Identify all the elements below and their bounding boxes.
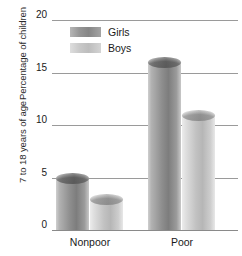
y-axis-title-line2: 7 to 18 years of age (17, 101, 28, 183)
bar-cap-shading (182, 110, 215, 121)
y-tick-label-0: 0 (41, 219, 47, 230)
bar-body (182, 115, 215, 231)
bar-cap-shading (90, 194, 123, 205)
bar-chart: Percentage of children 7 to 18 years of … (0, 0, 242, 256)
y-tick-label-5: 5 (41, 167, 47, 178)
bar-cap-shading (56, 173, 89, 184)
gridline-0-baseline (52, 230, 238, 231)
y-axis-title-line1: Percentage of children (17, 7, 28, 100)
bar-poor-boys (182, 110, 215, 231)
x-category-label-nonpoor: Nonpoor (52, 236, 128, 248)
legend-item-boys: Boys (70, 42, 131, 54)
y-tick-label-10: 10 (36, 114, 47, 125)
bar-body (148, 62, 181, 230)
x-category-label-poor: Poor (144, 236, 220, 248)
bar-body (56, 178, 89, 231)
bar-nonpoor-girls (56, 173, 89, 231)
legend-swatch-boys-icon (70, 43, 101, 53)
legend-label-boys: Boys (108, 42, 131, 54)
y-tick-label-15: 15 (36, 62, 47, 73)
bar-cap-shading (148, 57, 181, 68)
gridline-20 (52, 20, 238, 21)
gridline-15 (52, 73, 238, 74)
bar-poor-girls (148, 57, 181, 230)
y-tick-label-20: 20 (36, 9, 47, 20)
legend-swatch-girls-icon (70, 27, 101, 37)
legend-label-girls: Girls (108, 26, 130, 38)
legend-item-girls: Girls (70, 26, 131, 38)
bar-nonpoor-boys (90, 194, 123, 231)
y-axis-title: Percentage of children 7 to 18 years of … (5, 15, 39, 175)
legend: Girls Boys (70, 26, 131, 54)
